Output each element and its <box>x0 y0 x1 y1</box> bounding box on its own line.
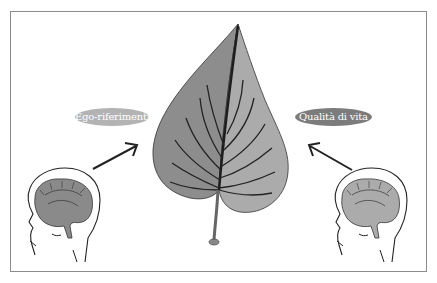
brain-right-icon <box>342 179 400 238</box>
arrow-left-icon <box>93 143 137 169</box>
arrow-right-icon <box>309 143 352 170</box>
brain-left-icon <box>35 179 93 238</box>
leaf-icon <box>153 24 288 245</box>
label-ego-riferimenti: Ego-riferimenti <box>75 108 149 126</box>
label-qualita-di-vita: Qualità di vita <box>295 108 372 126</box>
diagram-art <box>0 0 437 283</box>
